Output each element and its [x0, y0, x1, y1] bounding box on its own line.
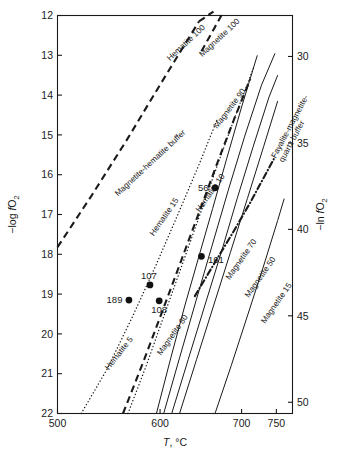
curve-label-magnetite-50: Magnetite 50 [243, 255, 278, 299]
curve-label-magnetite-90: Magnetite 90 [212, 87, 248, 131]
y-tick-label: 16 [41, 168, 53, 180]
curve-labels-layer: Magnetite-hematite bufferHematite 100Mag… [103, 16, 318, 371]
curve-magnetite-90 [164, 53, 275, 413]
axes-layer: 1213141516171819202122303540455050060070… [6, 9, 329, 447]
data-point-107 [147, 282, 154, 289]
y-tick-label: 21 [41, 367, 53, 379]
figure-oxygen-fugacity-diagram: 56161107108189 1213141516171819202122303… [0, 0, 338, 457]
y2-tick-label: 30 [297, 50, 309, 62]
curve-magnetite-70 [172, 75, 278, 413]
y-tick-label: 12 [41, 9, 53, 21]
y2-tick-label: 35 [297, 137, 309, 149]
y-tick-label: 18 [41, 248, 53, 260]
x-tick-label: 500 [49, 417, 67, 429]
curve-magnetite-50 [180, 101, 278, 413]
curve-label-magnetite-100: Magnetite 100 [197, 16, 241, 58]
data-point-161 [198, 253, 205, 260]
data-point-label-161: 161 [208, 254, 224, 265]
y2-tick-label: 45 [297, 310, 309, 322]
segment-hematite-100 [199, 12, 214, 22]
curve-label-magnetite-15: Magnetite 15 [259, 281, 294, 325]
y2-tick-label: 50 [297, 396, 309, 408]
data-point-label-189: 189 [107, 294, 123, 305]
plot-frame [58, 16, 293, 414]
y-tick-label: 17 [41, 208, 53, 220]
curve-label-hematite-5: Hematite 5 [103, 335, 135, 372]
y2-axis-title: −ln fO2 [314, 198, 329, 231]
y-tick-label: 13 [41, 49, 53, 61]
data-point-189 [126, 297, 133, 304]
chart-canvas: 56161107108189 1213141516171819202122303… [0, 0, 338, 457]
y-tick-label: 19 [41, 288, 53, 300]
y-axis-title: −log fO2 [6, 195, 21, 233]
x-tick-label: 750 [268, 417, 286, 429]
curve-label-hematite-15: Hematite 15 [148, 196, 181, 238]
x-tick-label: 600 [151, 417, 169, 429]
data-point-label-107: 107 [141, 270, 157, 281]
data-point-label-108: 108 [151, 304, 167, 315]
x-tick-label: 700 [233, 417, 251, 429]
curve-label-magnetite-70: Magnetite 70 [224, 237, 259, 281]
y-tick-label: 20 [41, 328, 53, 340]
x-axis-title: T, °C [163, 436, 187, 448]
y2-tick-label: 40 [297, 223, 309, 235]
curve-label-magnetite-hematite-buffer: Magnetite-hematite buffer [113, 128, 187, 198]
curve-hematite-15 [156, 55, 257, 413]
y-tick-label: 15 [41, 129, 53, 141]
y-tick-label: 14 [41, 89, 53, 101]
